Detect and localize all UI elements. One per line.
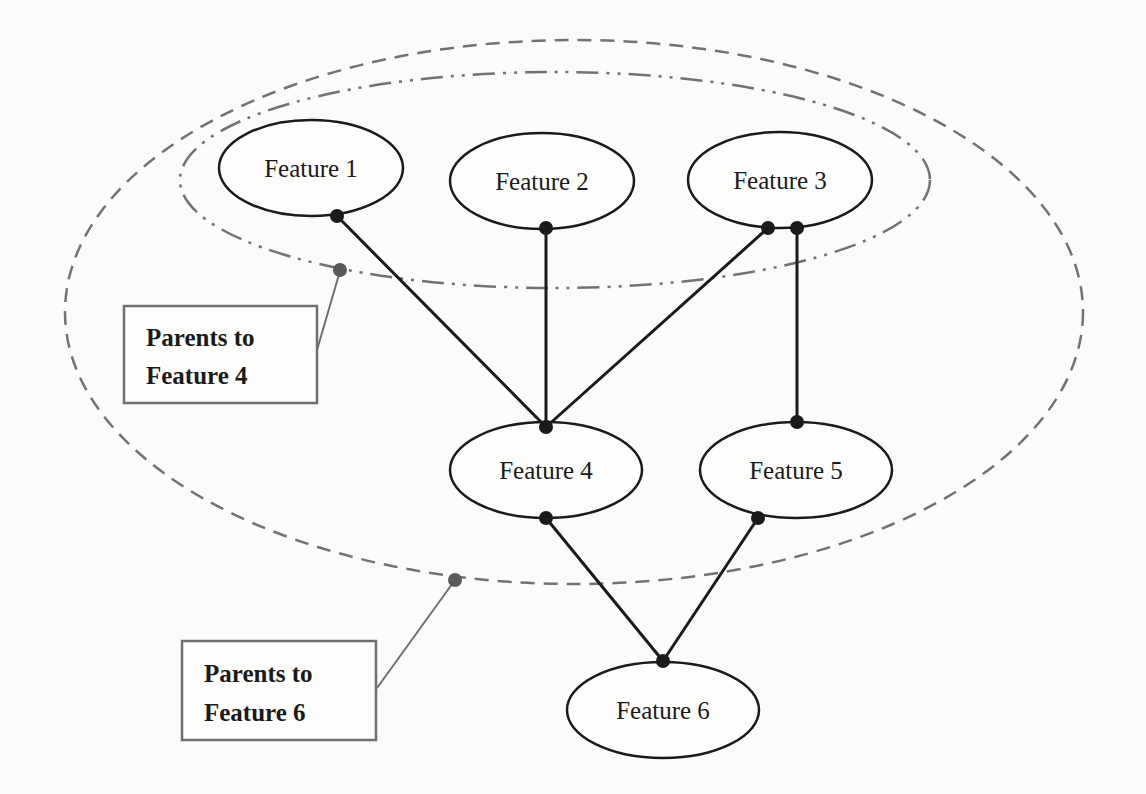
- port-dot: [539, 420, 553, 434]
- callout-line-2: Feature 6: [204, 699, 306, 726]
- port-dot: [330, 209, 344, 223]
- node-feature-6[interactable]: Feature 6: [567, 662, 759, 758]
- callout-parents-to-feature-4: Parents to Feature 4: [124, 306, 317, 403]
- node-label: Feature 5: [749, 457, 843, 484]
- port-dot: [656, 654, 670, 668]
- port-dot: [790, 221, 804, 235]
- edge-f3-f4: [546, 228, 768, 427]
- callout-line-1: Parents to: [146, 324, 255, 351]
- port-dot: [539, 221, 553, 235]
- node-feature-4[interactable]: Feature 4: [450, 422, 642, 518]
- node-feature-1[interactable]: Feature 1: [219, 120, 403, 216]
- callout-line-2: Feature 4: [146, 362, 248, 389]
- node-feature-3[interactable]: Feature 3: [688, 132, 872, 228]
- node-label: Feature 2: [495, 168, 589, 195]
- node-feature-2[interactable]: Feature 2: [450, 133, 634, 229]
- node-label: Feature 1: [264, 155, 358, 182]
- node-label: Feature 4: [499, 457, 593, 484]
- feature-dependency-diagram: Feature 1 Feature 2 Feature 3 Feature 4 …: [0, 0, 1146, 794]
- edge-f4-f6: [546, 518, 663, 661]
- callout-parents-to-feature-6: Parents to Feature 6: [182, 641, 376, 740]
- edge-f1-f4: [337, 216, 546, 427]
- port-dot: [790, 415, 804, 429]
- callout-f6-anchor-dot: [448, 573, 462, 587]
- callout-f4-leader: [317, 271, 340, 350]
- node-feature-5[interactable]: Feature 5: [700, 422, 892, 518]
- port-dot: [539, 511, 553, 525]
- node-label: Feature 6: [616, 697, 710, 724]
- callout-line-1: Parents to: [204, 660, 313, 687]
- node-label: Feature 3: [733, 167, 827, 194]
- callout-f6-leader: [377, 580, 455, 688]
- port-dot: [751, 511, 765, 525]
- port-dot: [761, 221, 775, 235]
- edge-f5-f6: [663, 518, 758, 661]
- callout-f4-anchor-dot: [333, 263, 347, 277]
